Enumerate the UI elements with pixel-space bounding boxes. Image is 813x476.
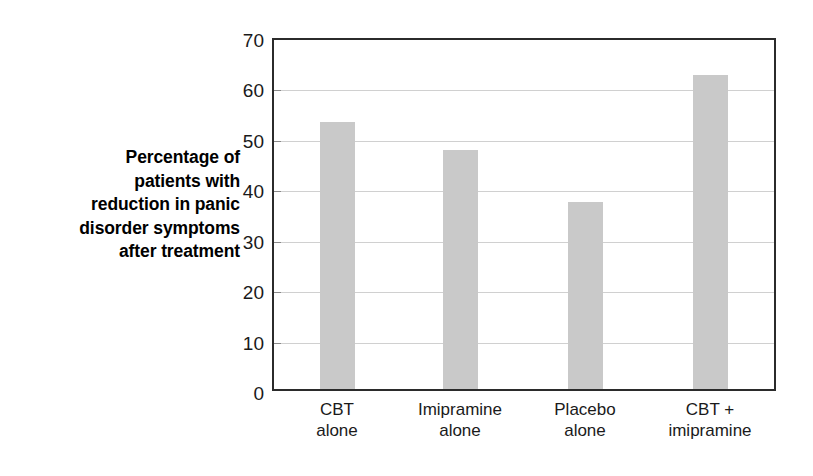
- y-axis-tick-label: 0: [224, 384, 264, 403]
- y-tick-mark: [274, 242, 281, 243]
- y-axis-tick-label: 20: [224, 283, 264, 302]
- y-axis-tick-label: 40: [224, 182, 264, 201]
- x-tick-line: imipramine: [635, 420, 785, 441]
- bar-cbt-alone: [320, 122, 355, 389]
- y-axis-tick-label: 50: [224, 132, 264, 151]
- y-axis-title-line: patients with: [8, 170, 240, 194]
- y-axis-title-line: after treatment: [8, 240, 240, 264]
- x-axis-tick-label-cbt-plus-imipramine: CBT + imipramine: [635, 399, 785, 441]
- y-axis-tick-label: 10: [224, 334, 264, 353]
- y-tick-mark: [274, 191, 281, 192]
- y-axis-tick-label: 70: [224, 31, 264, 50]
- chart-figure: Percentage of patients with reduction in…: [0, 0, 813, 476]
- plot-area: [272, 38, 776, 391]
- y-tick-mark: [274, 90, 281, 91]
- y-tick-mark: [274, 343, 281, 344]
- x-tick-line: CBT +: [635, 399, 785, 420]
- y-axis-tick-label: 30: [224, 233, 264, 252]
- bar-imipramine-alone: [443, 150, 478, 389]
- bar-cbt-plus-imipramine: [693, 75, 728, 389]
- y-axis-title-line: disorder symptoms: [8, 217, 240, 241]
- y-axis-title: Percentage of patients with reduction in…: [8, 146, 240, 264]
- y-tick-mark: [274, 141, 281, 142]
- y-tick-mark: [274, 292, 281, 293]
- y-axis-title-line: reduction in panic: [8, 193, 240, 217]
- y-axis-title-line: Percentage of: [8, 146, 240, 170]
- bar-placebo-alone: [568, 202, 603, 389]
- y-axis-tick-label: 60: [224, 81, 264, 100]
